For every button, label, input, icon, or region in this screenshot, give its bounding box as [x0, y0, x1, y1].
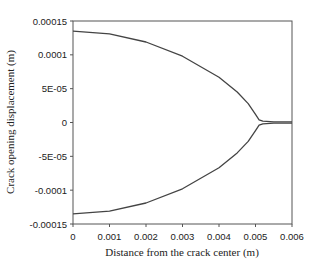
x-tick-label: 0.004 [207, 231, 231, 242]
plot-area [73, 21, 292, 224]
x-tick-label: 0 [70, 231, 75, 242]
y-tick-label: 5E-05 [42, 83, 67, 94]
x-axis-label: Distance from the crack center (m) [105, 246, 259, 259]
y-tick-label: -0.0001 [35, 185, 67, 196]
y-tick-label: -0.00015 [29, 219, 67, 230]
y-tick-label: 0.00015 [33, 16, 67, 27]
y-tick-label: -5E-05 [38, 151, 67, 162]
x-tick-label: 0.003 [171, 231, 195, 242]
data-series [73, 31, 292, 214]
lower-crack-face-line [73, 123, 292, 214]
x-tick-label: 0.006 [280, 231, 304, 242]
y-tick-label: 0 [62, 117, 67, 128]
crack-opening-chart: 0.000150.00015E-050-5E-05-0.0001-0.00015… [0, 0, 317, 269]
upper-crack-face-line [73, 31, 292, 122]
y-axis-label: Crack opening displacement (m) [4, 50, 17, 194]
x-axis-ticks: 00.0010.0020.0030.0040.0050.006 [70, 224, 304, 242]
x-tick-label: 0.002 [134, 231, 158, 242]
x-tick-label: 0.005 [244, 231, 268, 242]
y-tick-label: 0.0001 [38, 49, 67, 60]
y-axis-ticks: 0.000150.00015E-050-5E-05-0.0001-0.00015 [29, 16, 73, 230]
x-tick-label: 0.001 [98, 231, 122, 242]
